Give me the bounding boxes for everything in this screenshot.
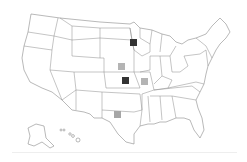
marker-missouri: [141, 78, 148, 85]
us-map: [0, 0, 247, 162]
marker-kansas: [122, 77, 129, 84]
marker-texas: [114, 111, 121, 118]
marker-minnesota: [130, 39, 137, 46]
divider: [12, 152, 237, 153]
marker-nebraska: [118, 63, 125, 70]
